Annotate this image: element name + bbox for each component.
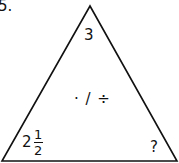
- whole-number: 2: [22, 135, 32, 150]
- denominator: 2: [34, 144, 42, 157]
- operations-label: · / ÷: [74, 92, 111, 107]
- numerator: 1: [34, 128, 42, 141]
- bottom-left-value: 2 1 2: [22, 128, 43, 157]
- top-value: 3: [84, 28, 94, 43]
- bottom-right-unknown: ?: [150, 140, 158, 155]
- fraction: 1 2: [34, 128, 43, 157]
